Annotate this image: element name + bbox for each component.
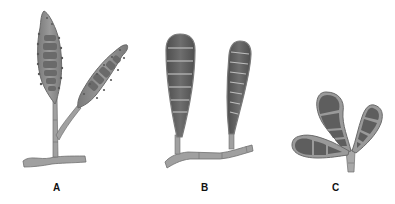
panel-a-conidium-right bbox=[78, 45, 128, 108]
panel-c bbox=[292, 92, 382, 172]
panel-a-stalk bbox=[53, 98, 58, 157]
panel-c-label: C bbox=[332, 183, 339, 193]
panel-b-stalk-left bbox=[175, 135, 180, 154]
panel-b bbox=[165, 34, 253, 168]
panel-c-conidium-right bbox=[352, 105, 382, 153]
conidia-illustration bbox=[0, 0, 395, 204]
panel-a-conidium-left bbox=[37, 11, 63, 104]
panel-b-conidium-right bbox=[227, 41, 251, 134]
panel-b-stalk-right bbox=[229, 133, 234, 149]
panel-b-conidium-left bbox=[166, 34, 195, 137]
panel-a-hypha bbox=[23, 156, 86, 167]
panel-a-label: A bbox=[53, 183, 60, 193]
panel-b-label: B bbox=[201, 183, 208, 193]
panel-a-branch bbox=[56, 105, 81, 140]
panel-a bbox=[23, 11, 128, 167]
